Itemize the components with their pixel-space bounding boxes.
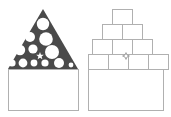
pyramid-box (113, 40, 133, 55)
pyramid-box (149, 55, 169, 70)
pyramid-box (103, 25, 123, 40)
box-pyramid-group (89, 10, 169, 70)
pyramid-box (89, 55, 109, 70)
pyramid-box (93, 40, 113, 55)
pyramid-box (113, 10, 133, 25)
right-figure-svg (85, 0, 171, 117)
left-figure-svg (0, 0, 86, 117)
base-rectangle (89, 70, 164, 111)
figure-left (0, 0, 86, 117)
pyramid-box (133, 40, 153, 55)
pyramid-box (123, 25, 143, 40)
figure-canvas (0, 0, 171, 117)
triangle-shape (8, 9, 78, 69)
figure-right (85, 0, 171, 117)
pyramid-box (129, 55, 149, 70)
base-rectangle (9, 70, 79, 111)
